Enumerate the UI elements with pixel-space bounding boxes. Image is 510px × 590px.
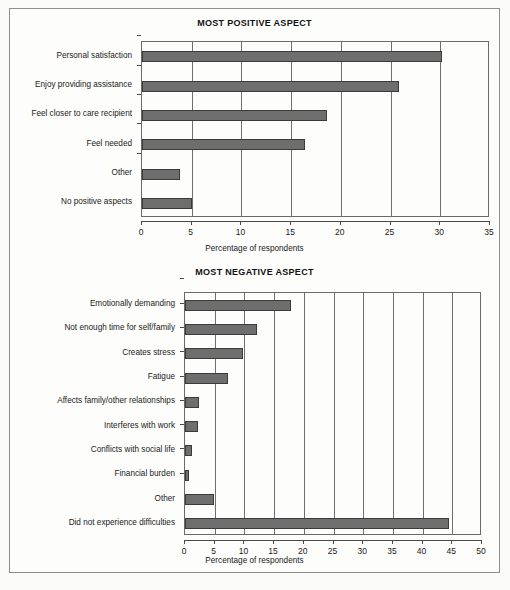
y-tick: [180, 376, 184, 377]
gridline: [440, 42, 441, 216]
category-label: No positive aspects: [61, 198, 132, 206]
y-tick: [180, 473, 184, 474]
y-tick: [180, 448, 184, 449]
x-tick: [340, 221, 341, 225]
y-tick: [137, 35, 141, 36]
x-tick: [303, 540, 304, 544]
x-tick: [191, 221, 192, 225]
y-tick: [180, 424, 184, 425]
y-tick: [137, 94, 141, 95]
gridline: [241, 42, 242, 216]
x-tick: [390, 221, 391, 225]
chart-most-negative-aspect: MOST NEGATIVE ASPECT Emotionally demandi…: [10, 259, 499, 569]
x-tick: [481, 540, 482, 544]
category-label: Not enough time for self/family: [64, 324, 175, 332]
gridline: [304, 293, 305, 534]
bar: [185, 470, 189, 481]
x-tick-label: 40: [410, 547, 434, 556]
x-tick-label: 20: [328, 228, 352, 237]
x-tick: [392, 540, 393, 544]
bar: [185, 397, 199, 408]
x-tick-label: 10: [228, 228, 252, 237]
y-tick: [180, 303, 184, 304]
x-axis-title-positive: Percentage of respondents: [10, 244, 499, 253]
x-tick-label: 5: [179, 228, 203, 237]
category-label: Affects family/other relationships: [57, 397, 175, 405]
x-tick: [184, 540, 185, 544]
gridline: [363, 293, 364, 534]
y-tick: [180, 351, 184, 352]
figure-page: MOST POSITIVE ASPECT Personal satisfacti…: [0, 0, 510, 590]
category-label: Conflicts with social life: [91, 446, 175, 454]
x-tick-label: 0: [172, 547, 196, 556]
x-tick-label: 5: [202, 547, 226, 556]
x-tick-label: 30: [350, 547, 374, 556]
bar: [142, 110, 327, 121]
y-tick: [137, 123, 141, 124]
x-tick: [451, 540, 452, 544]
y-tick: [137, 153, 141, 154]
plot-area-positive: [141, 41, 489, 217]
x-tick: [489, 221, 490, 225]
x-tick-label: 15: [278, 228, 302, 237]
bar: [142, 51, 442, 62]
x-tick: [240, 221, 241, 225]
category-label: Enjoy providing assistance: [35, 81, 132, 89]
category-label: Did not experience difficulties: [69, 519, 175, 527]
category-label: Interferes with work: [104, 422, 175, 430]
bar: [142, 198, 192, 209]
x-tick: [362, 540, 363, 544]
category-label: Creates stress: [122, 349, 175, 357]
category-label: Personal satisfaction: [56, 52, 132, 60]
gridline: [423, 293, 424, 534]
chart-most-positive-aspect: MOST POSITIVE ASPECT Personal satisfacti…: [10, 11, 499, 261]
category-label: Financial burden: [114, 470, 175, 478]
chart-title-positive: MOST POSITIVE ASPECT: [10, 18, 499, 28]
bar: [185, 373, 228, 384]
y-tick: [180, 278, 184, 279]
y-tick: [137, 65, 141, 66]
figure-frame: MOST POSITIVE ASPECT Personal satisfacti…: [9, 8, 500, 573]
x-tick: [273, 540, 274, 544]
bar: [185, 518, 449, 529]
x-tick: [243, 540, 244, 544]
gridline: [452, 293, 453, 534]
x-tick: [333, 540, 334, 544]
bar: [142, 81, 399, 92]
bar: [185, 494, 214, 505]
x-tick: [439, 221, 440, 225]
category-label: Fatigue: [148, 373, 175, 381]
bar: [185, 421, 198, 432]
x-axis-line-positive: [141, 221, 489, 222]
x-tick-label: 35: [477, 228, 501, 237]
category-label: Emotionally demanding: [90, 300, 175, 308]
bar: [185, 445, 192, 456]
gridline: [192, 42, 193, 216]
x-tick: [141, 221, 142, 225]
gridline: [393, 293, 394, 534]
x-tick-label: 10: [231, 547, 255, 556]
gridline: [334, 293, 335, 534]
gridline: [341, 42, 342, 216]
category-label: Other: [155, 495, 175, 503]
x-tick-label: 20: [291, 547, 315, 556]
bar: [185, 324, 257, 335]
x-tick-label: 45: [439, 547, 463, 556]
x-axis-title-negative: Percentage of respondents: [10, 556, 499, 565]
x-tick-label: 50: [469, 547, 493, 556]
y-tick: [180, 327, 184, 328]
bar: [142, 139, 305, 150]
page-footnote: [10, 580, 500, 589]
bar: [185, 348, 243, 359]
x-tick: [290, 221, 291, 225]
category-label: Feel needed: [86, 140, 132, 148]
chart-title-negative: MOST NEGATIVE ASPECT: [10, 267, 499, 277]
x-tick-label: 25: [321, 547, 345, 556]
bar: [142, 169, 180, 180]
gridline: [291, 42, 292, 216]
x-tick-label: 15: [261, 547, 285, 556]
x-tick-label: 0: [129, 228, 153, 237]
category-label: Other: [112, 169, 132, 177]
x-tick-label: 30: [427, 228, 451, 237]
gridline: [391, 42, 392, 216]
